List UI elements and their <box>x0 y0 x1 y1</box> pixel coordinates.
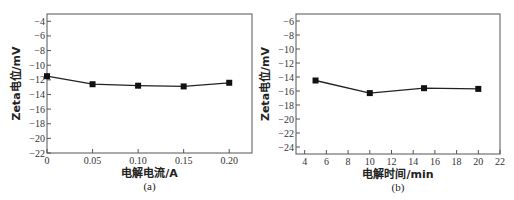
x-tick-label: 4 <box>302 156 307 167</box>
x-axis-label: 电解时间/min <box>362 167 433 181</box>
chart-canvas: −4−6−8−10−12−14−16−18−20−2200.050.100.15… <box>0 0 514 200</box>
y-tick-label: −8 <box>34 45 45 56</box>
data-point-marker <box>475 86 481 92</box>
y-tick-label: −20 <box>29 133 45 144</box>
x-tick-label: 14 <box>408 156 418 167</box>
panel-label: (b) <box>392 181 405 194</box>
data-point-marker <box>421 85 427 91</box>
y-tick-label: −10 <box>278 44 294 55</box>
y-tick-label: −6 <box>34 30 45 41</box>
y-tick-label: −8 <box>283 30 294 41</box>
x-tick-label: 0.15 <box>175 155 193 166</box>
x-tick-label: 6 <box>324 156 329 167</box>
data-point-marker <box>90 81 96 87</box>
data-point-marker <box>181 83 187 89</box>
y-tick-label: −4 <box>34 16 45 27</box>
y-tick-label: −14 <box>278 72 294 83</box>
y-tick-label: −24 <box>278 142 294 153</box>
chart-panel-b: −6−8−10−12−14−16−18−20−22−24468101214161… <box>258 14 505 194</box>
plot-frame <box>296 14 500 154</box>
y-tick-label: −10 <box>29 60 45 71</box>
x-tick-label: 0 <box>45 155 50 166</box>
data-point-marker <box>44 73 50 79</box>
y-tick-label: −16 <box>29 104 45 115</box>
data-line <box>316 81 479 94</box>
y-tick-label: −22 <box>29 148 45 159</box>
y-axis-label: Zeta电位/mV <box>9 46 23 121</box>
x-tick-label: 16 <box>430 156 440 167</box>
y-tick-label: −12 <box>278 58 294 69</box>
data-point-marker <box>226 80 232 86</box>
y-tick-label: −18 <box>29 118 45 129</box>
y-tick-label: −6 <box>283 16 294 27</box>
x-axis-label: 电解电流/A <box>121 166 178 180</box>
y-tick-label: −14 <box>29 89 45 100</box>
x-tick-label: 0.20 <box>220 155 238 166</box>
x-tick-label: 10 <box>365 156 375 167</box>
x-tick-label: 8 <box>346 156 351 167</box>
data-point-marker <box>313 78 319 84</box>
chart-panel-a: −4−6−8−10−12−14−16−18−20−2200.050.100.15… <box>9 14 252 193</box>
y-tick-label: −18 <box>278 100 294 111</box>
x-tick-label: 0.10 <box>129 155 147 166</box>
y-tick-label: −12 <box>29 74 45 85</box>
y-tick-label: −22 <box>278 128 294 139</box>
y-axis-label: Zeta电位/mV <box>258 46 272 121</box>
x-tick-label: 12 <box>386 156 396 167</box>
x-tick-label: 22 <box>495 156 505 167</box>
y-tick-label: −16 <box>278 86 294 97</box>
x-tick-label: 18 <box>452 156 462 167</box>
y-tick-label: −20 <box>278 114 294 125</box>
x-tick-label: 0.05 <box>84 155 102 166</box>
x-tick-label: 20 <box>473 156 483 167</box>
panel-label: (a) <box>143 180 156 193</box>
data-point-marker <box>135 83 141 89</box>
data-point-marker <box>367 90 373 96</box>
